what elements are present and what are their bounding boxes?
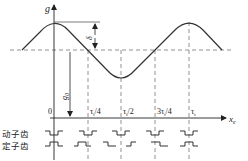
air-gap-diagram: g xe δ g0 0 τt/4 τt/2 3τt/4 τt 动子齿 定子齿 (0, 0, 248, 161)
teeth-pos-three-quarter (146, 131, 168, 146)
diagram-canvas: g xe δ g0 0 τt/4 τt/2 3τt/4 τt 动子齿 定子齿 (0, 0, 248, 161)
teeth-positions (45, 131, 198, 146)
tick-quarter: τt/4 (90, 107, 101, 117)
delta-label: δ (85, 36, 94, 40)
tick-three-quarter: 3τt/4 (157, 107, 172, 117)
stator-teeth-label: 定子齿 (2, 141, 29, 151)
g-axis-label: g (45, 3, 50, 14)
mover-teeth-label: 动子齿 (2, 129, 29, 139)
g0-label: g0 (60, 93, 70, 100)
air-gap-curve (22, 23, 222, 78)
x-axis-label: xe (228, 114, 236, 125)
tick-0: 0 (48, 107, 52, 116)
teeth-pos-quarter (74, 131, 97, 146)
tick-full: τt (191, 107, 196, 117)
period-gridlines (88, 22, 189, 160)
teeth-pos-half (103, 131, 136, 146)
tick-half: τt/2 (123, 107, 134, 117)
